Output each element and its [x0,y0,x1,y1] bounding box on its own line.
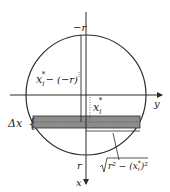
svg-text:r² − (xi*)²: r² − (xi*)² [108,159,148,172]
label-x-axis: x [76,177,82,188]
delta-x-brace: { [28,116,36,131]
label-half-width: r² − (xi*)² [100,158,148,172]
label-neg-r: −r [73,22,87,33]
label-distance-from-top: xi*− (−r) [36,70,78,88]
circle-cross-section-diagram: −r r x y xi*− (−r) xi* Δx { r² − (xi*)² [0,0,170,192]
half-width-pointer [113,133,119,160]
label-distance-from-center: xi* [93,96,102,116]
label-delta-x: Δx [7,117,23,130]
label-r: r [77,160,83,171]
label-y-axis: y [153,98,160,109]
